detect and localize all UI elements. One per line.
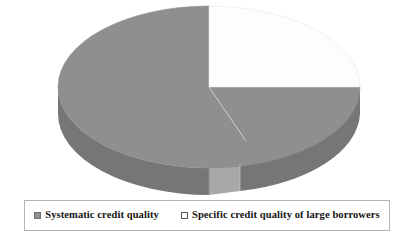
pie-chart-svg <box>0 0 409 196</box>
pie-plot-area <box>0 0 409 196</box>
chart-legend: Systematic credit quality Specific credi… <box>24 200 390 231</box>
pie-chart-figure: Systematic credit quality Specific credi… <box>0 0 409 243</box>
legend-swatch-hollow-square-icon <box>181 212 188 219</box>
legend-item-specific-credit-quality[interactable]: Specific credit quality of large borrowe… <box>181 210 380 221</box>
pie-side-wall-specific <box>209 164 240 195</box>
legend-swatch-filled-square-icon <box>34 212 41 219</box>
pie-slice-specific-credit-quality[interactable] <box>209 6 360 87</box>
legend-label-specific-credit-quality: Specific credit quality of large borrowe… <box>192 210 380 221</box>
legend-label-systematic-credit-quality: Systematic credit quality <box>45 210 159 221</box>
legend-item-systematic-credit-quality[interactable]: Systematic credit quality <box>34 210 159 221</box>
